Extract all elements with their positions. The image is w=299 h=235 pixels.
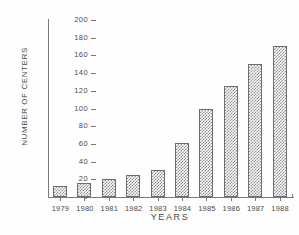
x-axis-tick-mark (280, 197, 281, 201)
bar-group: 1988 (269, 20, 293, 197)
y-axis-tick-mark (91, 197, 96, 198)
bars-layer: 1979198019811982198319841985198619871988 (49, 20, 293, 197)
x-axis-tick-mark (231, 197, 232, 201)
bar-group: 1986 (220, 20, 244, 197)
x-axis-tick-mark (255, 197, 256, 201)
x-axis-tick-mark (206, 197, 207, 201)
x-axis-tick-mark (182, 197, 183, 201)
x-axis-tick-mark (158, 197, 159, 201)
bar-chart-figure: NUMBER OF CENTERS 0204060801001201401601… (0, 0, 299, 235)
bar (248, 64, 262, 197)
bar (273, 46, 287, 197)
bar-group: 1983 (147, 20, 171, 197)
bar (175, 143, 189, 197)
bar (199, 109, 213, 197)
bar (77, 183, 91, 197)
bar (53, 186, 67, 198)
bar-group: 1979 (49, 20, 73, 197)
bar (224, 86, 238, 198)
bar-group: 1984 (171, 20, 195, 197)
bar-group: 1982 (122, 20, 146, 197)
bar-group: 1981 (98, 20, 122, 197)
x-axis-tick-mark (84, 197, 85, 201)
x-axis-title: YEARS (46, 212, 294, 222)
x-axis-tick-mark (133, 197, 134, 201)
bar-group: 1980 (73, 20, 97, 197)
bar (151, 170, 165, 197)
bar (126, 175, 140, 197)
bar (102, 179, 116, 197)
x-axis-tick-mark (60, 197, 61, 201)
y-axis-title: NUMBER OF CENTERS (20, 32, 29, 162)
bar-group: 1985 (195, 20, 219, 197)
bar-group: 1987 (244, 20, 268, 197)
x-axis-tick-mark (109, 197, 110, 201)
